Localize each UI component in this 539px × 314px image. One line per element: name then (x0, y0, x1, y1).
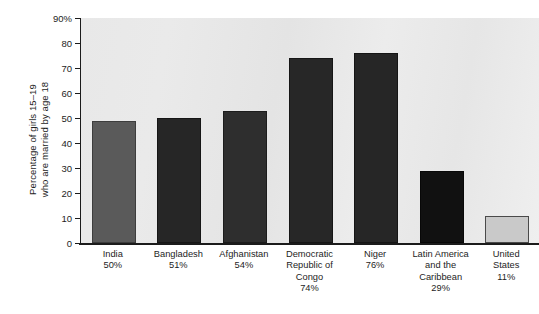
x-label-name-line: and the (408, 260, 474, 271)
x-label-democratic-republic-of-congo: DemocraticRepublic ofCongo74% (277, 249, 343, 295)
y-tick-label: 90% (53, 13, 72, 24)
y-tick-label: 30 (61, 163, 72, 174)
x-label-name-line: Democratic (277, 249, 343, 260)
y-tick-mark (75, 68, 81, 69)
x-label-niger: Niger76% (342, 249, 408, 272)
x-label-value: 29% (408, 283, 474, 294)
x-label-value: 51% (146, 260, 212, 271)
x-label-latin-america-and-the-caribbean: Latin Americaand theCaribbean29% (408, 249, 474, 295)
x-label-name-line: India (80, 249, 146, 260)
bar-niger (354, 53, 398, 243)
y-tick-label: 80 (61, 38, 72, 49)
y-tick-mark (75, 243, 81, 244)
x-label-name-line: Caribbean (408, 272, 474, 283)
y-axis-title-line-2: who are married by age 18 (38, 30, 50, 250)
x-label-india: India50% (80, 249, 146, 272)
y-tick-label: 70 (61, 63, 72, 74)
x-label-name-line: Latin America (408, 249, 474, 260)
bar-india (92, 121, 136, 244)
x-label-name-line: Niger (342, 249, 408, 260)
y-tick-mark (75, 93, 81, 94)
x-label-value: 50% (80, 260, 146, 271)
y-tick-mark (75, 168, 81, 169)
y-tick-label: 50 (61, 113, 72, 124)
x-label-name-line: Republic of (277, 260, 343, 271)
y-tick-mark (75, 193, 81, 194)
y-tick-mark (75, 218, 81, 219)
x-label-name-line: United (473, 249, 539, 260)
y-axis-title: Percentage of girls 15–19 who are marrie… (27, 30, 50, 250)
y-tick-label: 0 (67, 238, 72, 249)
y-tick-mark (75, 18, 81, 19)
y-tick-label: 40 (61, 138, 72, 149)
bar-latin-america-and-the-caribbean (420, 171, 464, 244)
x-label-name-line: States (473, 260, 539, 271)
x-label-value: 54% (211, 260, 277, 271)
x-label-name-line: Bangladesh (146, 249, 212, 260)
y-tick-label: 10 (61, 213, 72, 224)
y-tick-mark (75, 43, 81, 44)
x-label-value: 76% (342, 260, 408, 271)
x-axis-category-labels: India50%Bangladesh51%Afghanistan54%Democ… (80, 249, 539, 311)
y-axis-title-line-1: Percentage of girls 15–19 (27, 30, 39, 250)
x-label-name-line: Afghanistan (211, 249, 277, 260)
bars-group (81, 18, 539, 243)
x-label-afghanistan: Afghanistan54% (211, 249, 277, 272)
y-tick-label: 20 (61, 188, 72, 199)
bar-bangladesh (157, 118, 201, 243)
plot-area: 0102030405060708090% (80, 18, 539, 243)
y-tick-mark (75, 143, 81, 144)
bar-united-states (485, 216, 529, 244)
bar-afghanistan (223, 111, 267, 244)
x-label-bangladesh: Bangladesh51% (146, 249, 212, 272)
y-tick-mark (75, 118, 81, 119)
x-label-value: 74% (277, 283, 343, 294)
x-label-value: 11% (473, 272, 539, 283)
y-tick-label: 60 (61, 88, 72, 99)
bar-democratic-republic-of-congo (289, 58, 333, 243)
x-label-united-states: UnitedStates11% (473, 249, 539, 283)
bar-chart: Percentage of girls 15–19 who are marrie… (0, 0, 539, 314)
x-label-name-line: Congo (277, 272, 343, 283)
